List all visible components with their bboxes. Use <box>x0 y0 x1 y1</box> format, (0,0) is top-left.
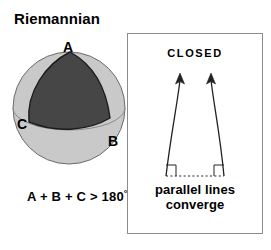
panel-caption-line-2: converge <box>128 197 262 212</box>
panel-heading: CLOSED <box>128 47 262 59</box>
closed-geometry-panel: CLOSED parallel lines converge <box>127 33 263 234</box>
parallel-line-left <box>166 80 180 176</box>
panel-caption-line-1: parallel lines <box>128 182 262 197</box>
vertex-label-a: A <box>63 40 73 54</box>
vertex-label-b: B <box>108 134 118 148</box>
angle-sum-expression: A + B + C > 180 <box>27 189 124 204</box>
vertex-label-c: C <box>17 117 27 131</box>
figure-title: Riemannian <box>14 10 100 27</box>
riemannian-geometry-figure: Riemannian A B C A + B + C > 180° CLOSED… <box>0 0 271 250</box>
converging-lines-diagram <box>144 64 248 184</box>
panel-caption: parallel lines converge <box>128 182 262 212</box>
parallel-line-right <box>211 80 224 176</box>
angle-sum-equation: A + B + C > 180° <box>27 189 128 204</box>
